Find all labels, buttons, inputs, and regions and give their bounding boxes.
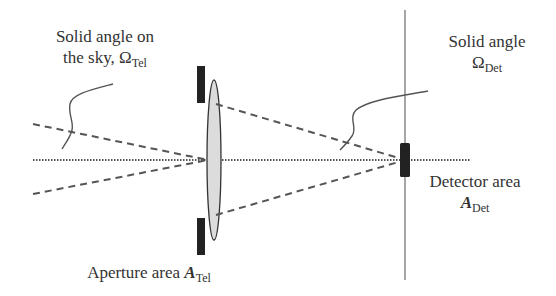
sky-ray-upper: [33, 124, 208, 160]
label-det-angle-line1: Solid angle: [432, 31, 542, 52]
detector-ray-upper: [216, 104, 402, 159]
aperture-stop-top: [197, 66, 205, 103]
label-sky-solid-angle: Solid angle on the sky, ΩTel: [40, 26, 170, 68]
sky-ray-lower: [33, 160, 208, 194]
label-det-area-line2: ADet: [415, 192, 535, 213]
label-sky-line2: the sky, ΩTel: [40, 47, 170, 68]
label-aperture-area: Aperture area ATel: [74, 262, 224, 283]
omega-symbol: Ω: [472, 53, 485, 72]
aperture-stop-bottom: [197, 218, 205, 255]
label-detector-solid-angle: Solid angle ΩDet: [432, 31, 542, 73]
leader-line-detector-angle: [340, 91, 428, 150]
label-det-area-line1: Detector area: [415, 171, 535, 192]
label-sky-line1: Solid angle on: [40, 26, 170, 47]
area-symbol: A: [461, 193, 472, 212]
label-det-angle-line2: ΩDet: [432, 52, 542, 73]
area-symbol: A: [184, 263, 195, 282]
label-detector-area: Detector area ADet: [415, 171, 535, 213]
omega-symbol: Ω: [119, 48, 132, 67]
detector-ray-lower: [216, 161, 402, 215]
detector: [400, 143, 410, 177]
